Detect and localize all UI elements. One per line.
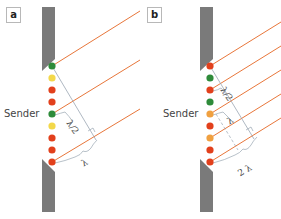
brace-large-a [55, 140, 97, 163]
diagram-stage: λ/2 λ λ/2 λ 2 λ a b Sender Send [0, 0, 281, 219]
brace-large-b [213, 137, 257, 163]
emitter-dots-b [206, 62, 213, 165]
ray-b-4 [210, 94, 281, 138]
ray-a-1 [52, 11, 140, 66]
emitter-dot-red [206, 62, 213, 69]
emitter-dot-green [206, 74, 213, 81]
emitter-dot-yellow [48, 74, 55, 81]
emitter-dot-green [206, 98, 213, 105]
lambda-half-label-a: λ/2 [64, 118, 80, 136]
sender-label-b: Sender [163, 108, 198, 119]
emitter-dot-red [206, 122, 213, 129]
emitter-dot-red [48, 146, 55, 153]
emitter-dot-red [206, 158, 213, 165]
emitter-dots-a [48, 62, 55, 165]
top-wall-b [200, 7, 213, 71]
emitter-dot-orange [206, 134, 213, 141]
panel-b: λ/2 λ 2 λ [200, 7, 281, 212]
emitter-dot-red [48, 86, 55, 93]
emitter-dot-red [206, 86, 213, 93]
emitter-dot-yellow [48, 122, 55, 129]
emitter-dot-green [48, 110, 55, 117]
emitter-dot-red [48, 158, 55, 165]
lambda-label-b: λ [225, 115, 235, 127]
panel-label-a: a [6, 7, 21, 23]
ray-b-1 [210, 22, 281, 66]
emitter-dot-red [48, 98, 55, 105]
lambda-label-a: λ [80, 157, 90, 169]
ray-a-3 [52, 109, 140, 162]
bottom-wall-b [200, 159, 213, 212]
sender-label-a: Sender [4, 108, 39, 119]
diagram-canvas: λ/2 λ λ/2 λ 2 λ [0, 0, 281, 219]
panel-label-b: b [147, 7, 162, 23]
emitter-dot-green [48, 62, 55, 69]
two-lambda-label-b: 2 λ [236, 162, 254, 178]
ray-a-2 [52, 60, 140, 114]
emitter-dot-red [48, 134, 55, 141]
bottom-wall-a [42, 159, 55, 212]
top-wall-a [42, 7, 55, 71]
panel-a: λ/2 λ [42, 7, 140, 212]
emitter-dot-red [206, 146, 213, 153]
emitter-dot-orange [206, 110, 213, 117]
